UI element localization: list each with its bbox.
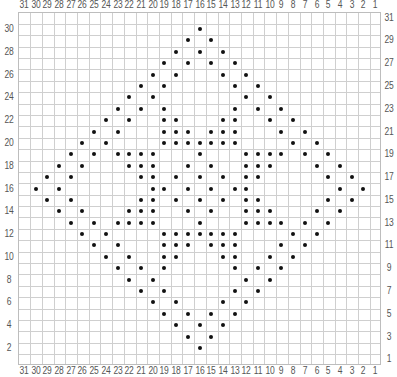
row-label-left: 14 [2,206,16,216]
column-label-top: 1 [368,0,382,10]
row-label-right: 5 [382,309,396,319]
stitch-dot [315,141,319,145]
grid-line-horizontal [19,274,380,275]
stitch-dot [151,175,155,179]
stitch-dot [350,198,354,202]
stitch-dot [116,130,120,134]
grid-line-horizontal [19,161,380,162]
stitch-dot [57,164,61,168]
stitch-dot [233,312,237,316]
grid-line-horizontal [19,69,380,70]
grid-line-horizontal [19,81,380,82]
row-label-right: 15 [382,195,396,205]
grid-line-horizontal [19,286,380,287]
stitch-dot [268,164,272,168]
stitch-dot [198,323,202,327]
grid-line-vertical [335,13,336,364]
grid-line-horizontal [19,320,380,321]
stitch-dot [291,255,295,259]
grid-line-horizontal [19,149,380,150]
stitch-dot [69,198,73,202]
stitch-dot [209,164,213,168]
stitch-dot [104,255,108,259]
stitch-dot [233,289,237,293]
stitch-dot [221,255,225,259]
row-label-right: 17 [382,172,396,182]
row-label-left: 28 [2,47,16,57]
stitch-dot [233,118,237,122]
row-label-left: 18 [2,161,16,171]
stitch-dot [198,141,202,145]
stitch-dot [174,50,178,54]
row-label-right: 31 [382,13,396,23]
grid-line-horizontal [19,217,380,218]
stitch-dot [186,187,190,191]
stitch-dot [233,187,237,191]
chart-grid [18,12,381,365]
stitch-dot [162,130,166,134]
grid-line-vertical [147,13,148,364]
stitch-dot [209,312,213,316]
grid-line-horizontal [19,240,380,241]
grid-line-horizontal [19,343,380,344]
stitch-dot [116,266,120,270]
grid-line-vertical [311,13,312,364]
grid-line-vertical [229,13,230,364]
stitch-dot [209,187,213,191]
grid-line-vertical [206,13,207,364]
stitch-dot [127,278,131,282]
stitch-dot [151,209,155,213]
grid-line-horizontal [19,115,380,116]
stitch-dot [127,164,131,168]
row-label-left: 30 [2,24,16,34]
stitch-dot [268,118,272,122]
stitch-dot [315,232,319,236]
stitch-dot [92,130,96,134]
grid-line-horizontal [19,195,380,196]
grid-line-vertical [42,13,43,364]
grid-line-vertical [241,13,242,364]
grid-line-horizontal [19,206,380,207]
stitch-dot [233,130,237,134]
row-label-left: 16 [2,184,16,194]
stitch-dot [338,164,342,168]
stitch-dot [233,61,237,65]
stitch-dot [209,335,213,339]
row-label-left: 20 [2,138,16,148]
grid-line-horizontal [19,35,380,36]
stitch-dot [198,232,202,236]
row-label-left: 4 [2,320,16,330]
grid-line-vertical [30,13,31,364]
stitch-dot [326,221,330,225]
stitch-dot [198,27,202,31]
stitch-dot [233,107,237,111]
stitch-dot [256,289,260,293]
grid-line-horizontal [19,183,380,184]
grid-line-vertical [54,13,55,364]
grid-line-vertical [136,13,137,364]
stitch-dot [174,198,178,202]
stitch-dot [244,73,248,77]
stitch-dot [174,255,178,259]
stitch-dot [104,118,108,122]
stitch-dot [221,198,225,202]
grid-line-vertical [77,13,78,364]
stitch-dot [221,50,225,54]
stitch-dot [139,107,143,111]
row-label-right: 27 [382,58,396,68]
grid-line-horizontal [19,92,380,93]
stitch-dot [151,221,155,225]
stitch-dot [256,164,260,168]
grid-line-vertical [358,13,359,364]
stitch-dot [186,164,190,168]
grid-line-vertical [323,13,324,364]
stitch-dot [69,221,73,225]
stitch-dot [268,255,272,259]
stitch-dot [151,278,155,282]
grid-line-horizontal [19,263,380,264]
stitch-dot [174,130,178,134]
row-label-right: 3 [382,332,396,342]
stitch-dot [221,175,225,179]
stitch-dot [233,141,237,145]
grid-line-vertical [370,13,371,364]
